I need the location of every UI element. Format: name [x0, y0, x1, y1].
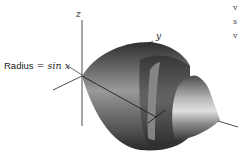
- edge-fragment: v: [233, 2, 241, 14]
- radius-equals: =: [34, 60, 48, 71]
- radius-label: Radius = sin x: [4, 61, 70, 71]
- x-axis-back: [53, 76, 82, 90]
- radius-label-text: Radius: [4, 60, 34, 71]
- cropped-edge-text: v s v: [233, 0, 241, 40]
- solid-of-revolution-figure: Radius = sin x z y v s v: [0, 0, 241, 153]
- x-axis-tip: [218, 121, 238, 127]
- radius-expression: sin x: [48, 60, 70, 71]
- edge-fragment: s: [233, 16, 241, 28]
- edge-fragment: v: [233, 30, 241, 42]
- radius-pointer: [68, 66, 82, 75]
- cone-tip: [172, 75, 220, 140]
- surface-plot: [0, 0, 241, 153]
- z-axis-label: z: [76, 10, 81, 19]
- y-axis-label: y: [156, 32, 161, 41]
